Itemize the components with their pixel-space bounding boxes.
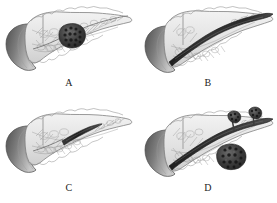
panel-c: C bbox=[0, 102, 138, 203]
pancreas-drawing-c bbox=[0, 102, 138, 184]
panel-b-artwork bbox=[139, 0, 277, 82]
panel-a: A bbox=[0, 0, 138, 101]
pancreas-drawing-d bbox=[139, 102, 277, 184]
tumor-mass-d bbox=[217, 144, 246, 170]
tumor-mass-a bbox=[59, 24, 86, 48]
panel-d-artwork bbox=[139, 102, 277, 184]
pancreas-drawing-a bbox=[0, 0, 138, 82]
panel-c-artwork bbox=[0, 102, 138, 184]
pancreas-drawing-b bbox=[139, 0, 277, 82]
panel-d: D bbox=[139, 102, 277, 203]
figure-container: A bbox=[0, 0, 277, 203]
panel-b: B bbox=[139, 0, 277, 101]
panel-label-d: D bbox=[139, 182, 277, 193]
panel-label-a: A bbox=[0, 77, 138, 88]
panel-a-artwork bbox=[0, 0, 138, 82]
panel-label-c: C bbox=[0, 182, 138, 193]
panel-label-b: B bbox=[139, 77, 277, 88]
